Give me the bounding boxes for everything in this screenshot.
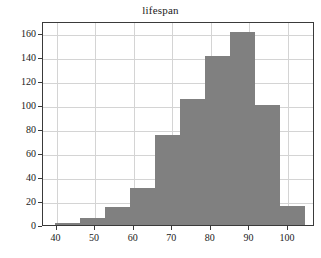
y-tick-label-40: 40 (0, 173, 36, 183)
histogram-bar (80, 218, 105, 225)
y-tick-label-60: 60 (0, 149, 36, 159)
y-tick-label-100: 100 (0, 101, 36, 111)
x-tick-label-70: 70 (151, 233, 191, 243)
histogram-bar (280, 206, 305, 225)
gridline-x-100 (288, 23, 289, 225)
histogram-figure: lifespan 020406080100120140160 405060708… (0, 0, 321, 258)
histogram-bar (55, 223, 80, 225)
x-tick-label-100: 100 (267, 233, 307, 243)
x-tick-label-90: 90 (228, 233, 268, 243)
gridline-y-140 (43, 59, 313, 60)
x-tick-label-80: 80 (190, 233, 230, 243)
gridline-x-50 (95, 23, 96, 225)
plot-area (42, 22, 314, 226)
y-tick-label-140: 140 (0, 53, 36, 63)
histogram-bar (130, 188, 155, 225)
x-tick-mark-40 (56, 226, 57, 230)
y-tick-label-0: 0 (0, 221, 36, 231)
histogram-bar (105, 207, 130, 225)
histogram-bar (180, 99, 205, 225)
y-tick-label-80: 80 (0, 125, 36, 135)
y-tick-label-20: 20 (0, 197, 36, 207)
histogram-bar (255, 105, 280, 225)
x-tick-mark-70 (171, 226, 172, 230)
x-tick-mark-60 (133, 226, 134, 230)
gridline-x-40 (57, 23, 58, 225)
histogram-bar (230, 32, 255, 225)
chart-title: lifespan (0, 4, 321, 16)
y-tick-label-120: 120 (0, 77, 36, 87)
histogram-bar (205, 56, 230, 225)
x-tick-mark-90 (248, 226, 249, 230)
y-tick-mark-0 (38, 226, 42, 227)
x-tick-label-50: 50 (74, 233, 114, 243)
gridline-y-160 (43, 35, 313, 36)
x-tick-label-60: 60 (113, 233, 153, 243)
x-tick-mark-50 (94, 226, 95, 230)
y-tick-label-160: 160 (0, 29, 36, 39)
x-tick-mark-100 (287, 226, 288, 230)
histogram-bar (155, 135, 180, 225)
x-tick-label-40: 40 (36, 233, 76, 243)
gridline-y-120 (43, 83, 313, 84)
x-tick-mark-80 (210, 226, 211, 230)
